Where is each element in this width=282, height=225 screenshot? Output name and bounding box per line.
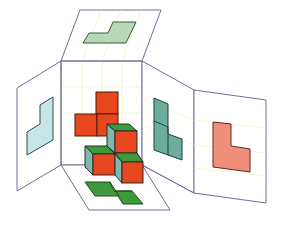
projection-diagram (0, 0, 282, 225)
cube-front-face (115, 131, 137, 153)
cube-front-face (122, 162, 143, 183)
cube-front-face (93, 154, 115, 175)
